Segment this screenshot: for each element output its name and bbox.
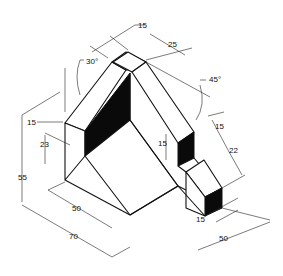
dim-left-height: 23 (40, 140, 49, 149)
dim-slot-height: 15 (158, 139, 167, 148)
dim-base-overall: 70 (69, 232, 78, 241)
dim-notch-width: 15 (196, 215, 205, 224)
dim-angle-left: 30° (86, 57, 98, 66)
dim-right-step: 15 (215, 122, 224, 131)
dim-depth-overall: 50 (219, 234, 228, 243)
dim-top-depth: 25 (168, 40, 177, 49)
dim-overall-height: 55 (18, 173, 27, 182)
dim-angle-right: 45° (209, 75, 221, 84)
left-front-face (65, 123, 85, 180)
dim-left-step: 15 (27, 118, 36, 127)
dimension-lines (22, 25, 270, 257)
dim-top-width: 15 (138, 21, 147, 30)
object-body (65, 52, 222, 216)
isometric-drawing: 15 25 30° 45° 15 23 55 50 70 15 15 22 15… (0, 0, 283, 276)
dim-right-height: 22 (229, 146, 238, 155)
dim-base-inner: 50 (72, 204, 81, 213)
right-slope-face (132, 62, 194, 143)
